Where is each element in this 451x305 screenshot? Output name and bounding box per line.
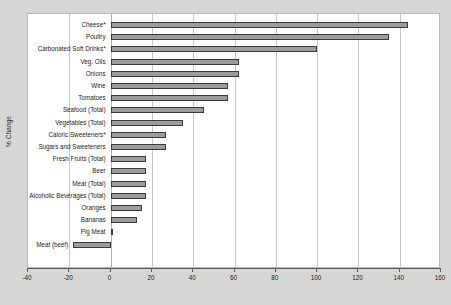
x-tick-label: -40 <box>22 274 31 281</box>
bar-row[interactable]: Oranges <box>28 202 439 214</box>
bar[interactable] <box>111 34 390 40</box>
bar-row[interactable]: Fresh Fruits (Total) <box>28 153 439 165</box>
bar-row[interactable]: Meat (beef) <box>28 239 439 251</box>
x-tick <box>440 268 441 272</box>
x-tick <box>192 268 193 272</box>
category-label: Meat (Total) <box>72 178 105 190</box>
bar[interactable] <box>111 132 167 138</box>
bar[interactable] <box>111 22 408 28</box>
bar-rows: Cheese*PoultryCarbonated Soft Drinks*Veg… <box>28 14 439 267</box>
x-tick-label: 140 <box>393 274 404 281</box>
x-tick <box>399 268 400 272</box>
x-tick <box>68 268 69 272</box>
category-label: Caloric Sweeteners* <box>49 129 106 141</box>
bar-row[interactable]: Caloric Sweeteners* <box>28 129 439 141</box>
category-label: Wine <box>91 80 105 92</box>
x-tick-label: 80 <box>271 274 278 281</box>
bar-row[interactable]: Beer <box>28 165 439 177</box>
x-tick <box>151 268 152 272</box>
category-label: Alcoholic Beverages (Total) <box>29 190 105 202</box>
category-label: Meat (beef) <box>36 239 68 251</box>
bar[interactable] <box>111 144 167 150</box>
bar-row[interactable]: Wine <box>28 80 439 92</box>
x-tick-label: 40 <box>189 274 196 281</box>
x-tick-label: 20 <box>147 274 154 281</box>
x-tick-label: 160 <box>435 274 446 281</box>
x-tick <box>275 268 276 272</box>
bar[interactable] <box>111 168 146 174</box>
bar[interactable] <box>111 205 142 211</box>
category-label: Tomatoes <box>78 92 105 104</box>
category-label: Cheese* <box>81 19 105 31</box>
bar[interactable] <box>111 107 204 113</box>
x-tick <box>357 268 358 272</box>
category-label: Carbonated Soft Drinks* <box>38 43 106 55</box>
x-tick-label: 100 <box>311 274 322 281</box>
category-label: Sugars and Sweeteners <box>38 141 105 153</box>
bar-row[interactable]: Seafood (Total) <box>28 104 439 116</box>
bar[interactable] <box>111 59 239 65</box>
bar[interactable] <box>111 71 239 77</box>
category-label: Bananas <box>81 214 106 226</box>
bar-row[interactable]: Poultry <box>28 31 439 43</box>
category-label: Onions <box>86 68 106 80</box>
plot-area: Cheese*PoultryCarbonated Soft Drinks*Veg… <box>27 13 440 268</box>
bar[interactable] <box>111 229 113 235</box>
x-tick <box>234 268 235 272</box>
bar-row[interactable]: Meat (Total) <box>28 178 439 190</box>
bar[interactable] <box>111 83 229 89</box>
bar[interactable] <box>111 217 138 223</box>
x-tick <box>27 268 28 272</box>
bar-row[interactable]: Alcoholic Beverages (Total) <box>28 190 439 202</box>
x-tick <box>316 268 317 272</box>
bar[interactable] <box>111 46 318 52</box>
category-label: Vegetables (Total) <box>55 117 105 129</box>
x-tick-label: 60 <box>230 274 237 281</box>
bar-row[interactable]: Tomatoes <box>28 92 439 104</box>
bar[interactable] <box>111 193 146 199</box>
x-tick-label: -20 <box>64 274 73 281</box>
category-label: Poultry <box>86 31 106 43</box>
bar-row[interactable]: Sugars and Sweeteners <box>28 141 439 153</box>
x-tick-label: 120 <box>352 274 363 281</box>
bar-row[interactable]: Bananas <box>28 214 439 226</box>
category-label: Beer <box>92 165 105 177</box>
category-label: Oranges <box>81 202 105 214</box>
x-tick-label: 0 <box>108 274 112 281</box>
bar-row[interactable]: Pig Meat <box>28 226 439 238</box>
y-axis-label: % Change <box>5 102 12 162</box>
category-label: Fresh Fruits (Total) <box>53 153 106 165</box>
bar-row[interactable]: Veg. Oils <box>28 56 439 68</box>
bar[interactable] <box>73 242 110 248</box>
x-tick <box>110 268 111 272</box>
bar-row[interactable]: Cheese* <box>28 19 439 31</box>
category-label: Pig Meat <box>81 226 106 238</box>
bar[interactable] <box>111 156 146 162</box>
bar[interactable] <box>111 181 146 187</box>
bar-row[interactable]: Vegetables (Total) <box>28 117 439 129</box>
category-label: Seafood (Total) <box>63 104 106 116</box>
category-label: Veg. Oils <box>80 56 105 68</box>
bar-chart: % Change Cheese*PoultryCarbonated Soft D… <box>0 0 451 305</box>
bar[interactable] <box>111 95 229 101</box>
bar-row[interactable]: Onions <box>28 68 439 80</box>
bar-row[interactable]: Carbonated Soft Drinks* <box>28 43 439 55</box>
bar[interactable] <box>111 120 183 126</box>
